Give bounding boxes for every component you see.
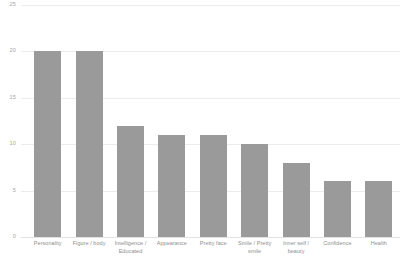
y-axis-tick-label: 15: [10, 95, 16, 101]
bar-slot: [317, 5, 358, 237]
bar[interactable]: [241, 144, 268, 237]
x-axis-category-label: Intelligence / Educated: [110, 240, 151, 270]
bar[interactable]: [76, 51, 103, 237]
y-axis-tick-label: 20: [10, 49, 16, 55]
bar-series: [27, 5, 400, 237]
bar-slot: [110, 5, 151, 237]
x-axis-category-label: Figure / body: [68, 240, 109, 270]
y-axis-tick-label: 5: [13, 188, 16, 194]
bar-slot: [193, 5, 234, 237]
x-axis-category-label: Inner self / beauty: [275, 240, 316, 270]
y-axis-tick-label: 10: [10, 141, 16, 147]
bar-slot: [275, 5, 316, 237]
bar[interactable]: [324, 181, 351, 237]
x-axis-category-label: Personality: [27, 240, 68, 270]
y-axis-tick-label: 0: [13, 234, 16, 240]
bar-slot: [151, 5, 192, 237]
bar[interactable]: [283, 163, 310, 237]
bar[interactable]: [365, 181, 392, 237]
bar-slot: [27, 5, 68, 237]
bar[interactable]: [158, 135, 185, 237]
y-axis-tick-label: 25: [10, 2, 16, 8]
x-axis-labels: PersonalityFigure / bodyIntelligence / E…: [27, 240, 400, 270]
x-axis-category-label: Health: [358, 240, 399, 270]
bar[interactable]: [34, 51, 61, 237]
bar-slot: [68, 5, 109, 237]
bar-chart: 0510152025 PersonalityFigure / bodyIntel…: [0, 0, 410, 271]
x-axis-category-label: Confidence: [317, 240, 358, 270]
bar[interactable]: [200, 135, 227, 237]
x-axis-category-label: Appearance: [151, 240, 192, 270]
x-axis-category-label: Pretty face: [193, 240, 234, 270]
gridline-0: 0: [21, 237, 400, 238]
plot-area: 0510152025: [21, 5, 400, 237]
x-axis-category-label: Smile / Pretty smile: [234, 240, 275, 270]
bar-slot: [234, 5, 275, 237]
bar-slot: [358, 5, 399, 237]
bar[interactable]: [117, 126, 144, 237]
